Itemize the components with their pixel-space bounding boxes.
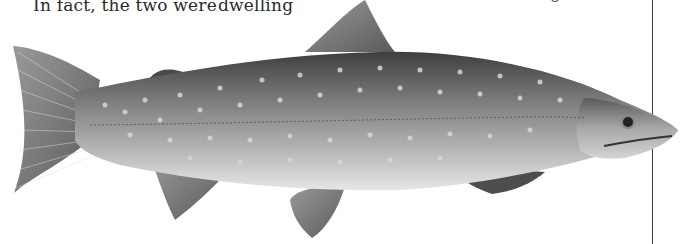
fish-eye (622, 116, 634, 128)
pelvic-fin (290, 186, 345, 238)
fish-illustration (0, 0, 684, 244)
dorsal-fin (305, 0, 395, 52)
